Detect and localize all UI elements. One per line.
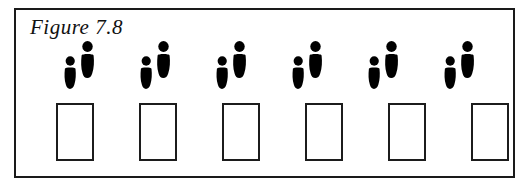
footprint-pair-icon — [286, 40, 332, 98]
box-outline — [471, 103, 509, 161]
box-outline — [56, 103, 94, 161]
footprint-pair-icon — [438, 40, 484, 98]
box-outline — [222, 103, 260, 161]
box-outline — [305, 103, 343, 161]
footprint-pair-icon — [58, 40, 104, 98]
footprints-row — [16, 40, 513, 98]
figure-panel: Figure 7.8 — [14, 8, 515, 178]
figure-caption: Figure 7.8 — [30, 15, 123, 40]
box-outline — [388, 103, 426, 161]
footprint-pair-icon — [134, 40, 180, 98]
footprint-pair-icon — [210, 40, 256, 98]
rectangles-row — [16, 103, 513, 165]
box-outline — [139, 103, 177, 161]
footprint-pair-icon — [362, 40, 408, 98]
